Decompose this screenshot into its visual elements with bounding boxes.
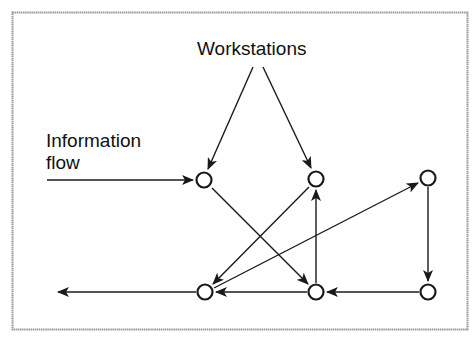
information-flow-label-line1: Information bbox=[46, 130, 141, 152]
workstation-node-f bbox=[421, 285, 436, 300]
workstation-node-a bbox=[197, 173, 212, 188]
edge-b-to-d bbox=[213, 187, 309, 284]
workstations-pointer-b bbox=[263, 67, 311, 168]
information-flow-label-line2: flow bbox=[46, 152, 141, 174]
workstation-node-e bbox=[309, 285, 324, 300]
workstations-label: Workstations bbox=[197, 38, 306, 60]
information-flow-label: Information flow bbox=[46, 130, 141, 174]
workstation-node-c bbox=[421, 171, 436, 186]
workstation-node-d bbox=[198, 285, 213, 300]
workstation-node-b bbox=[309, 172, 324, 187]
workstations-pointer-a bbox=[208, 67, 253, 169]
workstation-flow-diagram: Workstations Information flow bbox=[0, 0, 474, 338]
